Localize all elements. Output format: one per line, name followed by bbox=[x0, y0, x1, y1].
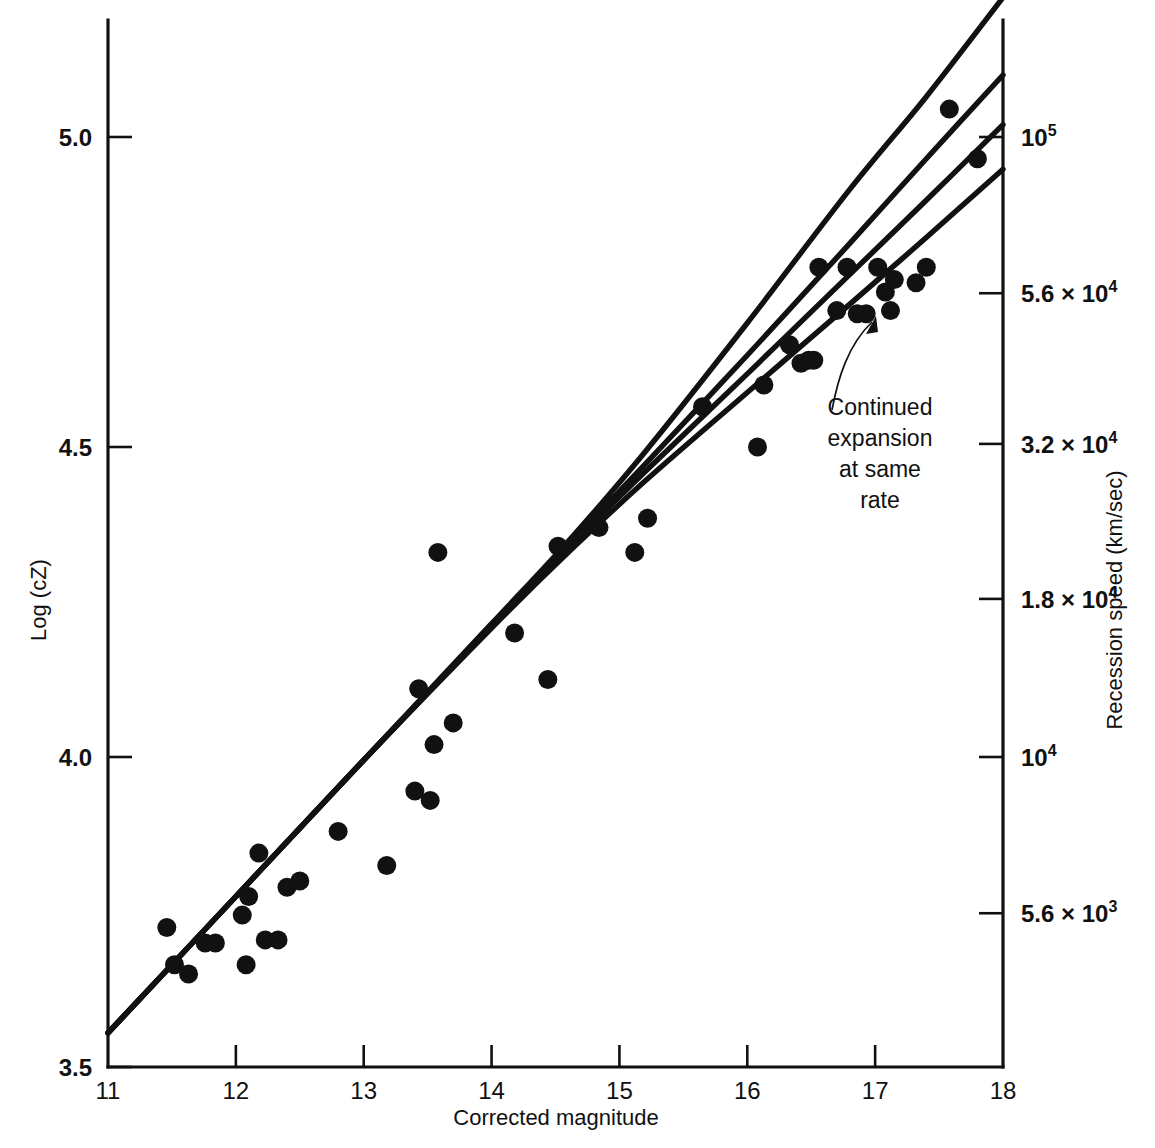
data-point bbox=[425, 735, 444, 754]
data-point bbox=[868, 258, 887, 277]
y-axis-right-ticks bbox=[979, 137, 1003, 913]
annotation-text-group: Continuedexpansionat samerate bbox=[828, 394, 933, 513]
data-point bbox=[377, 856, 396, 875]
data-point bbox=[827, 301, 846, 320]
x-axis-tick-label: 16 bbox=[734, 1077, 761, 1104]
data-point bbox=[538, 670, 557, 689]
data-point bbox=[838, 258, 857, 277]
data-point bbox=[589, 518, 608, 537]
data-point bbox=[444, 713, 463, 732]
data-point bbox=[329, 822, 348, 841]
data-point bbox=[237, 955, 256, 974]
y-axis-right-tick-label: 105 bbox=[1021, 122, 1057, 151]
data-point bbox=[693, 397, 712, 416]
x-axis-tick-label: 14 bbox=[478, 1077, 505, 1104]
data-point bbox=[206, 934, 225, 953]
y-axis-left-tick-label: 4.0 bbox=[59, 744, 92, 771]
data-point bbox=[780, 335, 799, 354]
data-point bbox=[233, 906, 252, 925]
data-point bbox=[907, 273, 926, 292]
annotation-line: Continued bbox=[828, 394, 933, 420]
x-axis-ticks bbox=[236, 1045, 875, 1067]
data-point bbox=[857, 304, 876, 323]
data-point bbox=[409, 679, 428, 698]
x-axis-tick-label: 11 bbox=[96, 1077, 121, 1104]
x-axis-tick-label: 18 bbox=[990, 1077, 1017, 1104]
y-axis-left-tick-label: 3.5 bbox=[59, 1054, 92, 1081]
x-axis-tick-labels: 1112131415161718 bbox=[96, 1077, 1017, 1104]
data-point bbox=[249, 844, 268, 863]
x-axis-tick-label: 12 bbox=[223, 1077, 250, 1104]
y-axis-right-tick-label: 5.6 × 104 bbox=[1021, 278, 1117, 307]
data-point bbox=[549, 537, 568, 556]
data-point bbox=[157, 918, 176, 937]
y-axis-right-tick-label: 104 bbox=[1021, 742, 1057, 771]
model-curves-group bbox=[108, 0, 1003, 1033]
x-axis-tick-label: 17 bbox=[862, 1077, 889, 1104]
y-axis-left-ticks bbox=[108, 137, 132, 1067]
x-axis-tick-label: 15 bbox=[606, 1077, 633, 1104]
y-axis-left-tick-label: 5.0 bbox=[59, 124, 92, 151]
upper-model-curve bbox=[108, 0, 1003, 1033]
y-axis-left-title: Log (cZ) bbox=[26, 559, 51, 641]
data-point bbox=[754, 376, 773, 395]
y-axis-right-title: Recession speed (km/sec) bbox=[1102, 470, 1127, 729]
data-point bbox=[748, 438, 767, 457]
annotation-line: rate bbox=[860, 487, 900, 513]
x-axis-tick-label: 13 bbox=[350, 1077, 377, 1104]
data-point bbox=[239, 887, 258, 906]
data-point bbox=[269, 930, 288, 949]
y-axis-left-tick-label: 4.5 bbox=[59, 434, 92, 461]
data-point bbox=[968, 149, 987, 168]
data-point bbox=[917, 258, 936, 277]
data-point bbox=[940, 100, 959, 119]
data-point bbox=[421, 791, 440, 810]
data-point bbox=[428, 543, 447, 562]
x-axis-title: Corrected magnitude bbox=[453, 1105, 658, 1130]
annotation-line: at same bbox=[839, 456, 921, 482]
data-point bbox=[625, 543, 644, 562]
y-axis-left-tick-labels: 3.54.04.55.0 bbox=[59, 124, 92, 1081]
hubble-diagram-figure: 3.54.04.55.0 1112131415161718 5.6 × 1031… bbox=[0, 0, 1155, 1148]
data-point bbox=[638, 509, 657, 528]
data-point bbox=[179, 965, 198, 984]
data-point bbox=[804, 351, 823, 370]
annotation-line: expansion bbox=[828, 425, 933, 451]
data-point bbox=[885, 270, 904, 289]
data-point bbox=[290, 872, 309, 891]
data-point bbox=[505, 624, 524, 643]
data-point bbox=[809, 258, 828, 277]
chart-canvas: 3.54.04.55.0 1112131415161718 5.6 × 1031… bbox=[0, 0, 1155, 1148]
y-axis-right-tick-label: 3.2 × 104 bbox=[1021, 429, 1117, 458]
data-point bbox=[881, 301, 900, 320]
y-axis-right-tick-label: 5.6 × 103 bbox=[1021, 898, 1117, 927]
